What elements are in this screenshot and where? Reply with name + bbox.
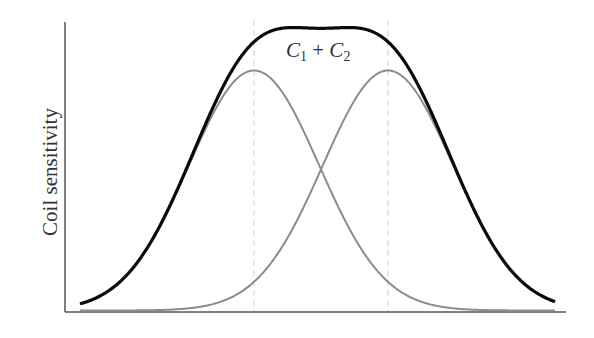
y-axis-label: Coil sensitivity: [38, 108, 63, 236]
sum-curve-label: C1 + C2: [286, 38, 350, 65]
c2-curve: [80, 71, 555, 311]
sum-label-sub1: 1: [300, 49, 307, 64]
c1-curve: [80, 71, 555, 311]
sum-label-sub2: 2: [343, 49, 350, 64]
sum-curve: [80, 28, 555, 304]
sum-label-c1: C: [286, 38, 300, 62]
sum-label-plus: +: [307, 38, 329, 62]
sum-label-c2: C: [329, 38, 343, 62]
